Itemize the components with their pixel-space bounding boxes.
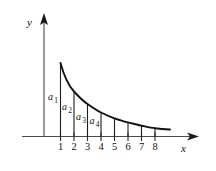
x-axis-label: x: [180, 142, 186, 154]
tick-label-7: 7: [139, 141, 144, 152]
term-label-a2: a 2: [62, 101, 72, 115]
tick-label-5: 5: [112, 141, 117, 152]
tick-label-1: 1: [58, 141, 63, 152]
x-axis-group: [22, 133, 199, 141]
tick-label-3: 3: [85, 141, 90, 152]
math-figure-svg: y x 1 2 3 4 5 6 7 8 a 1 a 2 a 3 a 4: [0, 0, 216, 171]
term-label-a2-base: a: [62, 101, 67, 112]
y-axis-group: [40, 13, 48, 137]
y-axis-label: y: [26, 16, 32, 28]
term-label-a1-sub: 1: [54, 96, 58, 105]
term-label-a2-sub: 2: [68, 106, 72, 115]
tick-label-6: 6: [125, 141, 130, 152]
term-label-a4-sub: 4: [96, 120, 100, 129]
term-label-a4: a 4: [90, 115, 100, 129]
term-label-a1-base: a: [48, 91, 53, 102]
term-label-a4-base: a: [90, 115, 95, 126]
tick-label-4: 4: [98, 141, 104, 152]
term-label-a3-base: a: [76, 111, 81, 122]
term-label-a1: a 1: [48, 91, 58, 105]
figure-container: y x 1 2 3 4 5 6 7 8 a 1 a 2 a 3 a 4: [0, 0, 216, 171]
term-label-a3: a 3: [76, 111, 86, 125]
tick-label-2: 2: [71, 141, 76, 152]
term-label-a3-sub: 3: [82, 116, 86, 125]
tick-label-8: 8: [152, 141, 157, 152]
